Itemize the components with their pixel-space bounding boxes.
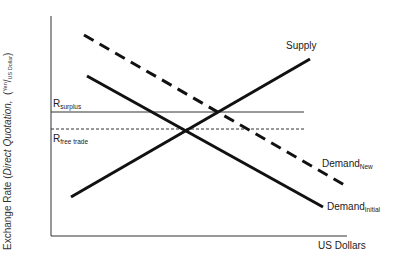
supply-curve	[71, 59, 310, 197]
x-axis-label: US Dollars	[318, 240, 366, 251]
demand-new-label: DemandNew	[322, 158, 373, 170]
demand-new-curve	[84, 35, 348, 187]
r-surplus-label: Rsurplus	[53, 98, 81, 110]
demand-initial-curve	[87, 76, 323, 207]
chart-canvas	[0, 0, 398, 259]
y-axis-label: Exchange Rate (Direct Quotation, (Yen/US…	[2, 0, 13, 250]
demand-initial-label: DemandInitial	[327, 201, 380, 213]
supply-label: Supply	[286, 40, 317, 51]
r-free-trade-label: Rfree trade	[53, 133, 88, 145]
